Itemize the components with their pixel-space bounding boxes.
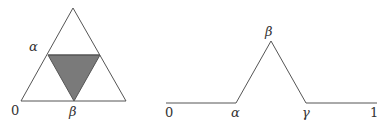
- shaded-inner-triangle: [48, 55, 100, 101]
- simplex-figure: α 0 β: [11, 8, 126, 119]
- label-gamma-right: γ: [302, 105, 310, 120]
- label-zero-right: 0: [165, 105, 173, 120]
- tent-function-figure: 0 α β γ 1: [165, 24, 378, 120]
- label-one-right: 1: [370, 105, 378, 120]
- diagram-canvas: α 0 β 0 α β γ 1: [0, 0, 391, 126]
- label-beta-left: β: [68, 104, 77, 119]
- label-beta-right: β: [264, 24, 273, 39]
- label-zero-left: 0: [11, 103, 19, 118]
- label-alpha-right: α: [231, 105, 240, 120]
- label-alpha-left: α: [29, 39, 38, 54]
- tent-function-line: [166, 41, 377, 103]
